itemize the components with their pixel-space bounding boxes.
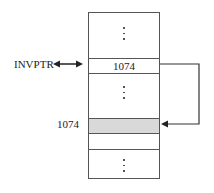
target-cell bbox=[89, 118, 159, 133]
pointer-arrow-icon bbox=[160, 64, 199, 128]
ellipsis-icon bbox=[123, 86, 125, 103]
pointer-cell-value: 1074 bbox=[113, 60, 135, 72]
empty-cell bbox=[89, 133, 159, 149]
target-address-label: 1074 bbox=[57, 117, 79, 131]
double-arrow-icon bbox=[53, 61, 83, 68]
pointer-cell: 1074 bbox=[89, 58, 159, 73]
top-ellipsis-cell bbox=[89, 13, 159, 58]
bottom-ellipsis-cell bbox=[89, 149, 159, 179]
middle-ellipsis-cell bbox=[89, 73, 159, 118]
invptr-label: INVPTR bbox=[14, 57, 54, 71]
ellipsis-icon bbox=[123, 27, 125, 44]
memory-stack: 1074 bbox=[88, 12, 160, 179]
ellipsis-icon bbox=[123, 159, 125, 176]
